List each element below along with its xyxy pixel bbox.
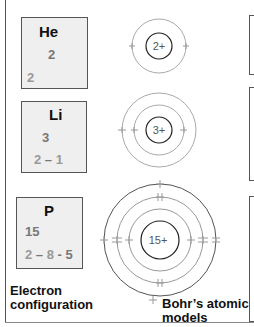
- caption-line: models: [162, 311, 249, 325]
- caption-electron-configuration: Electron configuration: [10, 284, 93, 312]
- caption-line: Electron: [10, 284, 93, 298]
- nucleus-label-p: 15+: [149, 234, 168, 246]
- caption-line: Bohr’s atomic: [162, 297, 249, 311]
- nucleus-label-li: 3+: [153, 124, 166, 136]
- nucleus-label-he: 2+: [153, 40, 166, 52]
- caption-bohr-models: Bohr’s atomic models: [162, 297, 249, 325]
- caption-line: configuration: [10, 298, 93, 312]
- bohr-models: 2+ 3+ 15+: [0, 0, 254, 327]
